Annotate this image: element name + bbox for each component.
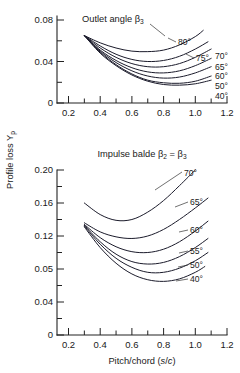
x-axis-title-main: Pitch/chord ( [108, 356, 161, 366]
bottom-chart-x-ticklabels: 0.2 0.4 0.6 0.8 1.0 1.2 [62, 339, 234, 350]
top-chart-xtick-1: 0.4 [94, 107, 107, 118]
svg-text:Profile loss Yp: Profile loss Yp [5, 131, 17, 189]
y-axis-title-subscript: p [9, 131, 17, 135]
top-chart-label-75: 75° [196, 53, 209, 63]
bottom-chart-series-labels: 70° 65° 60° 55° 50° 40° [155, 168, 203, 284]
top-chart-title-subscript: 3 [140, 18, 144, 25]
bottom-chart-label-70: 70° [184, 168, 197, 178]
curve-40deg [84, 36, 211, 86]
top-chart-label-40: 40° [215, 91, 228, 101]
profile-loss-figure: Profile loss Yp Outlet angle β3 0 [0, 0, 240, 373]
top-chart-x-ticks [69, 96, 228, 103]
top-chart-ytick-2: 0.08 [35, 14, 54, 25]
bottom-chart: Impulse balde β2 = β3 0 0.04 [35, 149, 234, 350]
top-chart-label-60: 60° [215, 71, 228, 81]
bottom-chart-x-ticks [69, 328, 228, 335]
top-chart-xtick-4: 1.0 [189, 107, 202, 118]
top-chart-ytick-0: 0 [48, 97, 53, 108]
figure-page: Profile loss Yp Outlet angle β3 0 [0, 0, 240, 373]
top-chart-title-leader [150, 24, 165, 36]
top-chart-xtick-0: 0.2 [62, 107, 75, 118]
top-chart-title: Outlet angle β3 [82, 14, 144, 25]
bottom-chart-label-65: 65° [190, 197, 203, 207]
y-axis-title: Profile loss Yp [5, 131, 17, 189]
bottom-chart-ytick-5: 0.20 [35, 164, 54, 175]
top-chart-xtick-2: 0.6 [125, 107, 138, 118]
x-axis-title-end: ) [172, 356, 175, 366]
top-chart-label-70: 70° [215, 51, 228, 61]
top-chart-label-80: 80° [178, 37, 191, 47]
bottom-chart-xtick-1: 0.4 [94, 339, 107, 350]
bottom-chart-title-eq: = β [167, 149, 183, 159]
top-chart-title-text: Outlet angle β [82, 14, 140, 24]
x-axis-title: Pitch/chord (s/c) [108, 356, 175, 366]
bottom-chart-y-ticks [57, 170, 64, 335]
top-chart-series-labels: 80° 75° 70° 65° 60° 50° 40° [168, 37, 228, 101]
bottom-chart-ytick-3: 0.12 [35, 230, 54, 241]
top-chart-x-ticklabels: 0.2 0.4 0.6 0.8 1.0 1.2 [62, 107, 234, 118]
curve-40deg [84, 227, 204, 281]
bottom-chart-title-text: Impulse balde β [97, 149, 163, 159]
bottom-chart-xtick-3: 0.8 [157, 339, 170, 350]
bottom-chart-xtick-0: 0.2 [62, 339, 75, 350]
bottom-chart-title-sub3: 3 [183, 153, 187, 160]
bottom-chart-y-ticklabels: 0 0.04 0.05 0.12 0.16 0.20 [35, 164, 54, 340]
bottom-chart-label-40: 40° [190, 274, 203, 284]
curve-70deg [84, 170, 195, 221]
bottom-chart-ytick-0: 0 [48, 329, 53, 340]
top-chart: Outlet angle β3 0 0.04 0.08 [35, 14, 234, 118]
bottom-chart-ytick-2: 0.05 [35, 263, 54, 274]
top-chart-xtick-3: 0.8 [157, 107, 170, 118]
bottom-chart-label-50: 50° [190, 260, 203, 270]
y-axis-title-text: Profile loss Y [5, 135, 15, 189]
top-chart-ytick-1: 0.04 [35, 56, 54, 67]
bottom-chart-title: Impulse balde β2 = β3 [97, 149, 186, 160]
bottom-chart-ytick-1: 0.04 [35, 296, 54, 307]
top-chart-y-ticklabels: 0 0.04 0.08 [35, 14, 54, 108]
top-chart-xtick-5: 1.2 [220, 107, 233, 118]
bottom-chart-xtick-4: 1.0 [189, 339, 202, 350]
bottom-chart-label-60: 60° [190, 225, 203, 235]
bottom-chart-xtick-2: 0.6 [125, 339, 138, 350]
top-chart-y-ticks [57, 20, 64, 103]
bottom-chart-xtick-5: 1.2 [220, 339, 233, 350]
bottom-chart-label-55: 55° [190, 246, 203, 256]
top-chart-curves [84, 30, 211, 85]
bottom-chart-ytick-4: 0.16 [35, 197, 54, 208]
top-chart-label-50: 50° [215, 81, 228, 91]
